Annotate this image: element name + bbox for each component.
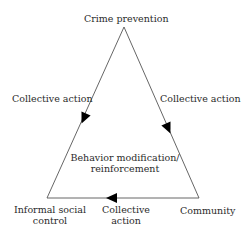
edge-bottom-label: Collective action <box>98 204 154 226</box>
node-bottom-right-label: Community <box>180 205 235 216</box>
edge-bottom-label-line1: Collective <box>98 204 154 215</box>
triangle-diagram <box>0 0 247 234</box>
edge-left-label: Collective action <box>12 93 93 104</box>
edge-bottom-label-line2: action <box>98 215 154 226</box>
edge-right-label: Collective action <box>160 93 241 104</box>
arrow-left-edge-icon <box>77 111 91 125</box>
arrow-right-edge-icon <box>161 121 175 135</box>
center-label: Behavior modification/ reinforcement <box>70 152 180 174</box>
node-bottom-left-label-line1: Informal social <box>14 204 86 215</box>
node-bottom-left-label: Informal social control <box>14 204 86 226</box>
arrow-bottom-edge-icon <box>106 193 117 203</box>
center-label-line1: Behavior modification/ <box>70 152 180 163</box>
center-label-line2: reinforcement <box>70 163 180 174</box>
node-bottom-left-label-line2: control <box>14 215 86 226</box>
node-top-label: Crime prevention <box>84 13 169 24</box>
